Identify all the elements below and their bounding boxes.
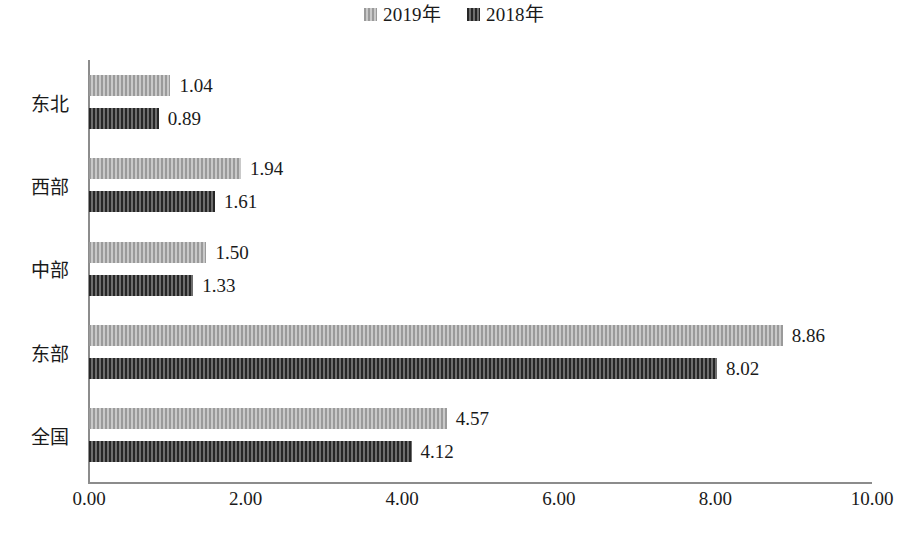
x-tick-0: 0.00: [54, 489, 124, 509]
x-tick-6: 6.00: [524, 489, 594, 509]
bar-value-dongbu-2018: 8.02: [726, 358, 759, 379]
category-label-zhongbu: 中部: [18, 261, 82, 280]
bar-dongbei-2019[interactable]: [89, 75, 170, 96]
bar-xibu-2018[interactable]: [89, 191, 215, 212]
x-axis-line: [88, 482, 872, 484]
bar-quanguo-2019[interactable]: [89, 408, 447, 429]
bar-value-dongbu-2019: 8.86: [792, 325, 825, 346]
bar-chart-plot-area: 东北 西部 中部 东部 全国 1.04 0.89 1.94 1.61 1.50 …: [0, 0, 908, 557]
bar-xibu-2019[interactable]: [89, 158, 241, 179]
category-label-quanguo: 全国: [18, 428, 82, 447]
bar-quanguo-2018[interactable]: [89, 441, 412, 462]
category-label-xibu: 西部: [18, 178, 82, 197]
bar-value-quanguo-2018: 4.12: [421, 441, 454, 462]
bar-value-xibu-2019: 1.94: [250, 158, 283, 179]
bar-dongbei-2018[interactable]: [89, 108, 159, 129]
x-tick-10: 10.00: [837, 489, 907, 509]
x-tick-4: 4.00: [367, 489, 437, 509]
bar-value-xibu-2018: 1.61: [224, 191, 257, 212]
bar-value-zhongbu-2019: 1.50: [215, 242, 248, 263]
bar-dongbu-2019[interactable]: [89, 325, 783, 346]
bar-zhongbu-2019[interactable]: [89, 242, 206, 263]
bar-value-dongbei-2019: 1.04: [179, 75, 212, 96]
x-tick-2: 2.00: [211, 489, 281, 509]
category-label-dongbei: 东北: [18, 95, 82, 114]
bar-value-quanguo-2019: 4.57: [456, 408, 489, 429]
bar-zhongbu-2018[interactable]: [89, 275, 193, 296]
bar-value-dongbei-2018: 0.89: [168, 108, 201, 129]
category-label-dongbu: 东部: [18, 345, 82, 364]
x-tick-8: 8.00: [680, 489, 750, 509]
bar-value-zhongbu-2018: 1.33: [202, 275, 235, 296]
bar-dongbu-2018[interactable]: [89, 358, 717, 379]
